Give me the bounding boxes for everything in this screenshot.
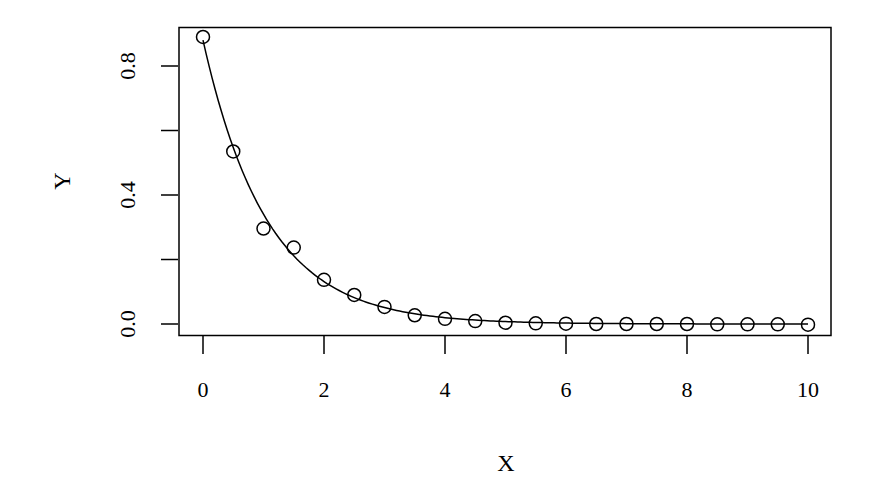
- chart: 0246810 0.00.40.8 X Y: [0, 0, 873, 494]
- x-tick-label: 8: [682, 377, 693, 402]
- y-axis: 0.00.40.8: [115, 52, 178, 338]
- y-axis-title: Y: [49, 172, 75, 189]
- y-tick-label: 0.0: [115, 310, 140, 338]
- y-tick-label: 0.4: [115, 181, 140, 209]
- x-tick-label: 2: [319, 377, 330, 402]
- data-point: [257, 222, 270, 235]
- x-tick-label: 6: [561, 377, 572, 402]
- x-tick-label: 10: [797, 377, 819, 402]
- fitted-curve: [203, 40, 808, 324]
- data-point: [287, 241, 300, 254]
- y-tick-label: 0.8: [115, 52, 140, 80]
- x-tick-label: 4: [440, 377, 451, 402]
- x-tick-label: 0: [198, 377, 209, 402]
- data-point: [408, 309, 421, 322]
- x-axis-title: X: [497, 450, 514, 476]
- x-axis: 0246810: [198, 336, 820, 402]
- plot-area-frame: [179, 28, 831, 336]
- data-point: [318, 273, 331, 286]
- data-points: [197, 30, 815, 331]
- data-point: [469, 315, 482, 328]
- data-point: [529, 317, 542, 330]
- data-point: [499, 316, 512, 329]
